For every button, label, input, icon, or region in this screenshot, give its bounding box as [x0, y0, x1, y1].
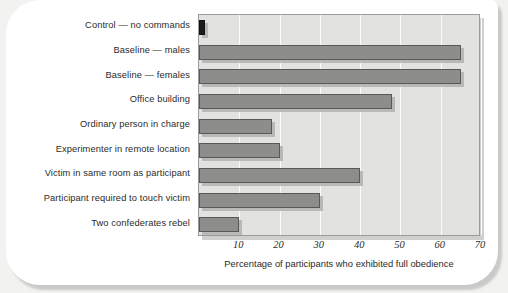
category-label: Experimenter in remote location: [0, 144, 190, 154]
bar: [199, 20, 205, 35]
bar: [199, 193, 320, 208]
x-tick-label: 70: [475, 239, 486, 250]
bar: [199, 69, 461, 84]
category-label: Control — no commands: [0, 20, 190, 30]
category-label: Baseline — females: [0, 70, 190, 80]
x-tick-label: 10: [233, 239, 244, 250]
x-tick-label: 40: [354, 239, 365, 250]
bar: [199, 119, 272, 134]
bar-chart: Control — no commandsBaseline — malesBas…: [0, 0, 508, 293]
x-tick-label: 30: [314, 239, 325, 250]
category-label: Ordinary person in charge: [0, 119, 190, 129]
category-label: Participant required to touch victim: [0, 193, 190, 203]
category-label: Victim in same room as participant: [0, 168, 190, 178]
x-axis-tick-labels: 10203040506070: [198, 239, 480, 255]
category-label: Office building: [0, 94, 190, 104]
x-tick-label: 60: [434, 239, 445, 250]
bar: [199, 45, 461, 60]
bar: [199, 94, 392, 109]
gridline-70: [481, 15, 482, 235]
page-background: Control — no commandsBaseline — malesBas…: [0, 0, 508, 293]
bar: [199, 143, 280, 158]
plot-area: [198, 14, 480, 236]
x-axis-title: Percentage of participants who exhibited…: [198, 258, 480, 269]
bar: [199, 168, 360, 183]
category-labels: Control — no commandsBaseline — malesBas…: [0, 14, 194, 236]
x-tick-label: 50: [394, 239, 405, 250]
category-label: Two confederates rebel: [0, 218, 190, 228]
bar: [199, 217, 239, 232]
x-tick-label: 20: [273, 239, 284, 250]
category-label: Baseline — males: [0, 45, 190, 55]
